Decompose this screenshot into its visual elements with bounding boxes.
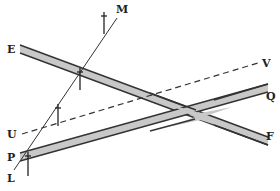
label-q: Q: [266, 90, 276, 103]
label-m: M: [116, 3, 128, 16]
label-f: F: [266, 130, 274, 143]
label-e: E: [7, 43, 15, 56]
diagram-canvas: M E V U Q P F L: [0, 0, 280, 191]
label-p: P: [7, 151, 15, 164]
label-u: U: [7, 128, 17, 141]
label-v: V: [261, 57, 271, 70]
label-l: L: [7, 172, 15, 185]
